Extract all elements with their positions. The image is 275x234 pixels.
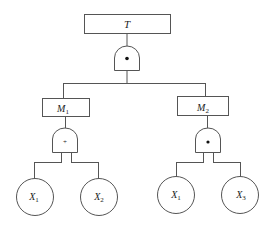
basic-event-x1-right: X1 [158,177,195,214]
intermediate-event-m1: M1 [43,99,90,117]
fault-tree-diagram: T M1 + X1 X2 [0,0,275,234]
basic-event-x2: X2 [81,179,118,216]
top-event-label: T [124,18,131,30]
m1-or-gate-icon: + [53,128,78,153]
top-and-gate-icon [115,46,140,71]
intermediate-event-m2: M2 [178,97,229,116]
top-event-box: T [85,15,171,34]
m1-subscript: 1 [65,108,69,116]
m2-and-gate-icon [196,128,221,153]
basic-event-x1-left: X1 [17,179,54,216]
basic-event-x3: X3 [222,177,259,214]
or-symbol: + [63,138,67,146]
m2-subscript: 2 [205,107,209,115]
